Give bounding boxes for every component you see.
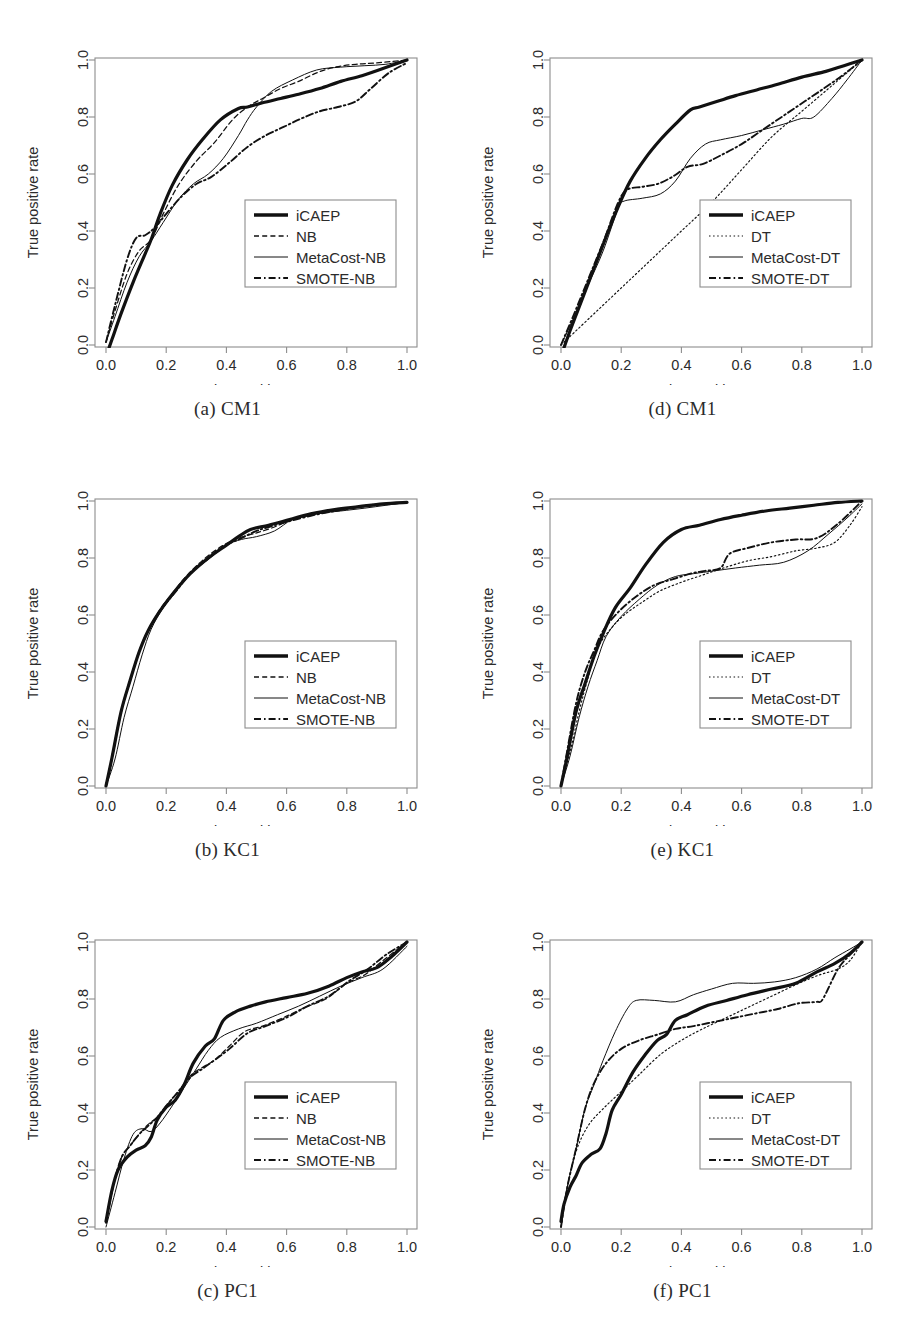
y-tick-label: 1.0 [530,932,546,952]
y-tick-label: 0.6 [530,1046,546,1066]
legend-label-icaep: iCAEP [751,207,795,224]
plot-area-e: 0.00.20.40.60.81.00.00.20.40.60.81.0Fals… [455,441,910,826]
legend-label-icaep: iCAEP [751,1089,795,1106]
x-tick-label: 1.0 [852,1239,872,1255]
y-tick-label: 0.8 [75,989,91,1009]
y-tick-label: 0.4 [75,1103,91,1123]
panel-b: 0.00.20.40.60.81.00.00.20.40.60.81.0Fals… [0,441,455,882]
y-tick-label: 0.2 [75,278,91,298]
y-tick-label: 0.0 [75,776,91,796]
legend-label-metacost-nb: MetaCost-NB [296,690,386,707]
y-tick-label: 0.4 [530,662,546,682]
x-tick-label: 0.4 [671,798,691,814]
y-tick-label: 0.0 [75,335,91,355]
x-tick-label: 0.2 [611,798,631,814]
x-tick-label: 0.6 [277,1239,297,1255]
plot-area-b: 0.00.20.40.60.81.00.00.20.40.60.81.0Fals… [0,441,455,826]
plot-area-f: 0.00.20.40.60.81.00.00.20.40.60.81.0Fals… [455,882,910,1267]
plot-area-a: 0.00.20.40.60.81.00.00.20.40.60.81.0Fals… [0,0,455,385]
x-tick-label: 1.0 [397,1239,417,1255]
plot-area-d: 0.00.20.40.60.81.00.00.20.40.60.81.0Fals… [455,0,910,385]
x-tick-label: 1.0 [397,798,417,814]
legend-label-icaep: iCAEP [296,1089,340,1106]
y-tick-label: 0.2 [530,1160,546,1180]
x-axis-title: False positive rate [197,382,315,385]
y-tick-label: 0.2 [75,1160,91,1180]
x-tick-label: 0.4 [671,1239,691,1255]
y-tick-label: 0.2 [530,278,546,298]
panel-d: 0.00.20.40.60.81.00.00.20.40.60.81.0Fals… [455,0,910,441]
x-tick-label: 0.8 [337,357,357,373]
panel-caption-e: (e) KC1 [455,839,910,861]
y-tick-label: 1.0 [75,50,91,70]
legend-label-smote-dt: SMOTE-DT [751,711,829,728]
legend-label-dt: DT [751,228,771,245]
x-tick-label: 0.6 [277,357,297,373]
x-tick-label: 0.4 [671,357,691,373]
roc-figure: 0.00.20.40.60.81.00.00.20.40.60.81.0Fals… [0,0,910,1324]
y-tick-label: 0.8 [530,989,546,1009]
x-axis-title: False positive rate [197,823,315,826]
x-tick-label: 0.8 [792,357,812,373]
y-tick-label: 0.4 [530,221,546,241]
y-tick-label: 1.0 [530,491,546,511]
x-tick-label: 0.0 [96,1239,116,1255]
y-tick-label: 0.0 [75,1217,91,1237]
y-tick-label: 0.4 [75,221,91,241]
y-tick-label: 0.0 [530,335,546,355]
y-tick-label: 0.8 [530,548,546,568]
y-tick-label: 0.8 [75,107,91,127]
panel-caption-d: (d) CM1 [455,398,910,420]
x-tick-label: 0.4 [216,357,236,373]
x-tick-label: 0.0 [96,798,116,814]
x-tick-label: 0.4 [216,1239,236,1255]
x-tick-label: 0.0 [551,798,571,814]
y-axis-title: True positive rate [480,147,496,258]
legend-label-icaep: iCAEP [296,207,340,224]
x-tick-label: 0.8 [792,798,812,814]
x-axis-title: False positive rate [652,823,770,826]
x-tick-label: 0.8 [792,1239,812,1255]
legend-label-smote-dt: SMOTE-DT [751,1152,829,1169]
x-axis-title: False positive rate [652,382,770,385]
panel-caption-b: (b) KC1 [0,839,455,861]
panel-c: 0.00.20.40.60.81.00.00.20.40.60.81.0Fals… [0,882,455,1323]
panel-e: 0.00.20.40.60.81.00.00.20.40.60.81.0Fals… [455,441,910,882]
legend-label-metacost-dt: MetaCost-DT [751,249,840,266]
x-axis-title: False positive rate [652,1264,770,1267]
x-tick-label: 1.0 [852,357,872,373]
legend-label-icaep: iCAEP [296,648,340,665]
y-tick-label: 0.2 [530,719,546,739]
y-tick-label: 0.0 [530,776,546,796]
x-tick-label: 0.6 [732,798,752,814]
panel-f: 0.00.20.40.60.81.00.00.20.40.60.81.0Fals… [455,882,910,1323]
y-tick-label: 0.6 [75,605,91,625]
panel-caption-f: (f) PC1 [455,1280,910,1302]
legend-label-smote-nb: SMOTE-NB [296,711,375,728]
y-tick-label: 1.0 [75,491,91,511]
y-tick-label: 0.0 [530,1217,546,1237]
x-tick-label: 0.0 [96,357,116,373]
legend-label-nb: NB [296,228,317,245]
y-tick-label: 0.2 [75,719,91,739]
legend-label-smote-nb: SMOTE-NB [296,1152,375,1169]
x-tick-label: 0.6 [277,798,297,814]
x-tick-label: 0.0 [551,357,571,373]
y-axis-title: True positive rate [480,588,496,699]
x-tick-label: 0.6 [732,1239,752,1255]
legend-label-dt: DT [751,1110,771,1127]
x-tick-label: 0.4 [216,798,236,814]
y-tick-label: 1.0 [75,932,91,952]
legend-label-smote-dt: SMOTE-DT [751,270,829,287]
x-tick-label: 0.0 [551,1239,571,1255]
legend-label-icaep: iCAEP [751,648,795,665]
legend-label-metacost-nb: MetaCost-NB [296,1131,386,1148]
x-axis-title: False positive rate [197,1264,315,1267]
y-tick-label: 1.0 [530,50,546,70]
x-tick-label: 1.0 [397,357,417,373]
plot-area-c: 0.00.20.40.60.81.00.00.20.40.60.81.0Fals… [0,882,455,1267]
y-tick-label: 0.6 [75,164,91,184]
legend-label-metacost-nb: MetaCost-NB [296,249,386,266]
legend-label-nb: NB [296,1110,317,1127]
x-tick-label: 0.6 [732,357,752,373]
